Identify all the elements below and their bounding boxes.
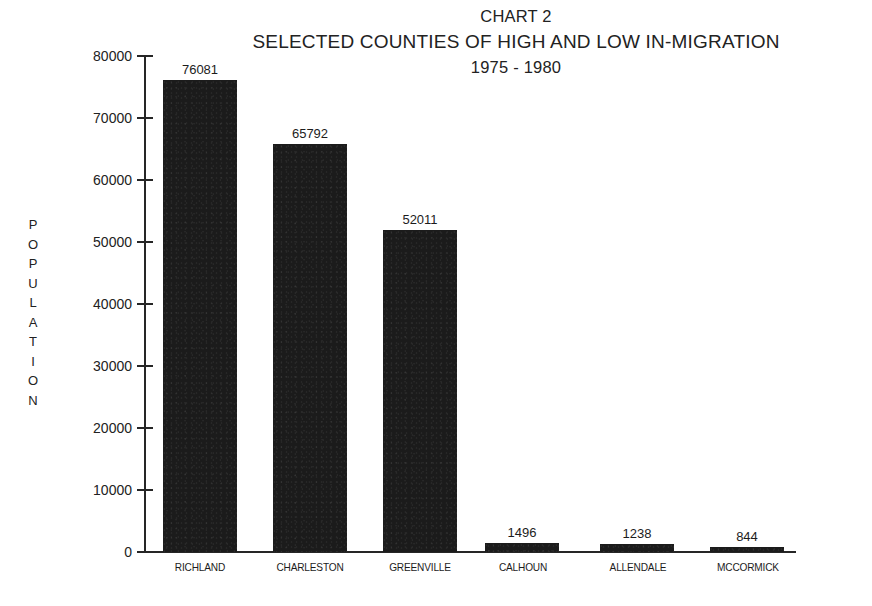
y-axis-tick-label: 0 <box>60 545 132 559</box>
bar[interactable] <box>273 144 347 552</box>
plot-area: 8000070000600005000040000300002000010000… <box>0 0 872 606</box>
y-axis-tick <box>137 303 153 305</box>
bar-value-label: 76081 <box>143 63 257 76</box>
bar-value-label: 844 <box>690 530 804 543</box>
y-axis-tick <box>137 55 153 57</box>
y-axis-tick-label-wrap: 0 <box>56 545 132 559</box>
y-axis-tick <box>137 117 153 119</box>
y-axis-tick-label-wrap: 50000 <box>56 235 132 249</box>
y-axis-tick <box>137 489 153 491</box>
bar[interactable] <box>710 547 784 552</box>
y-axis-tick-label-wrap: 30000 <box>56 359 132 373</box>
y-axis-tick-label: 80000 <box>60 49 132 63</box>
y-axis-tick-label-wrap: 60000 <box>56 173 132 187</box>
y-axis-tick-label: 10000 <box>60 483 132 497</box>
y-axis-tick-label-wrap: 20000 <box>56 421 132 435</box>
x-axis-category-label: GREENVILLE <box>365 561 475 573</box>
y-axis-tick <box>137 179 153 181</box>
x-axis-category-label: CHARLESTON <box>255 561 365 573</box>
bar-value-label: 1238 <box>580 527 694 540</box>
y-axis-tick-label: 20000 <box>60 421 132 435</box>
y-axis-tick-label-wrap: 10000 <box>56 483 132 497</box>
bar[interactable] <box>163 80 237 552</box>
x-axis-category-label: ALLENDALE <box>583 561 693 573</box>
y-axis-tick-label-wrap: 80000 <box>56 49 132 63</box>
y-axis-tick-label-wrap: 70000 <box>56 111 132 125</box>
bar-value-label: 52011 <box>363 213 477 226</box>
bar[interactable] <box>600 544 674 552</box>
y-axis-tick <box>137 365 153 367</box>
bar-value-label: 1496 <box>465 526 579 539</box>
y-axis-tick-label: 70000 <box>60 111 132 125</box>
y-axis-tick-label: 30000 <box>60 359 132 373</box>
y-axis-tick <box>137 551 153 553</box>
x-axis-category-label: RICHLAND <box>145 561 255 573</box>
y-axis-tick-label: 40000 <box>60 297 132 311</box>
bar-value-label: 65792 <box>253 127 367 140</box>
y-axis-tick <box>137 427 153 429</box>
y-axis-tick-label: 50000 <box>60 235 132 249</box>
bar[interactable] <box>383 230 457 552</box>
bar[interactable] <box>485 543 559 552</box>
x-axis-category-label: CALHOUN <box>468 561 578 573</box>
x-axis-line <box>144 551 796 553</box>
x-axis-category-label: MCCORMICK <box>693 561 803 573</box>
y-axis-tick <box>137 241 153 243</box>
y-axis-tick-label: 60000 <box>60 173 132 187</box>
y-axis-tick-label-wrap: 40000 <box>56 297 132 311</box>
